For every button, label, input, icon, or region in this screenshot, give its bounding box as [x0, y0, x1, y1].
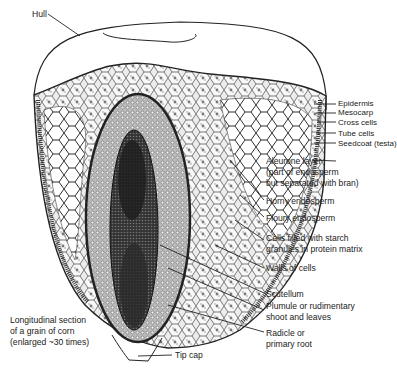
- caption-line-1: Longitudinal section: [10, 315, 86, 325]
- label-mesocarp: Mesocarp: [338, 108, 373, 118]
- caption-line-2: of a grain of corn: [10, 326, 75, 336]
- hull-crease: [103, 33, 196, 42]
- label-plumule-2: shoot and leaves: [266, 312, 331, 322]
- caption-line-3: (enlarged ~30 times): [10, 337, 89, 347]
- label-starch-cells-1: Cells filled with starch: [266, 233, 349, 243]
- label-plumule-1: Plumule or rudimentary: [266, 301, 355, 311]
- label-hull: Hull: [32, 9, 47, 19]
- label-aleurone-2: (part of endosperm: [266, 167, 339, 177]
- label-radicle-1: Radicle or: [266, 328, 305, 338]
- label-horny-endosperm: Horny endosperm: [266, 196, 334, 206]
- label-tube-cells: Tube cells: [338, 129, 374, 139]
- label-aleurone-3: but separated with bran): [266, 178, 359, 188]
- label-aleurone-1: Aleurone layer: [266, 156, 321, 166]
- label-floury-endosperm: Floury endosperm: [266, 213, 335, 223]
- label-radicle-2: primary root: [266, 339, 312, 349]
- label-cross-cells: Cross cells: [338, 118, 377, 128]
- label-walls-of-cells: Walls of cells: [266, 263, 316, 273]
- label-tip-cap: Tip cap: [175, 350, 203, 360]
- label-scutellum: Scutellum: [266, 289, 304, 299]
- label-starch-cells-2: granules in protein matrix: [266, 244, 363, 254]
- label-seedcoat: Seedcoat (testa): [338, 139, 397, 149]
